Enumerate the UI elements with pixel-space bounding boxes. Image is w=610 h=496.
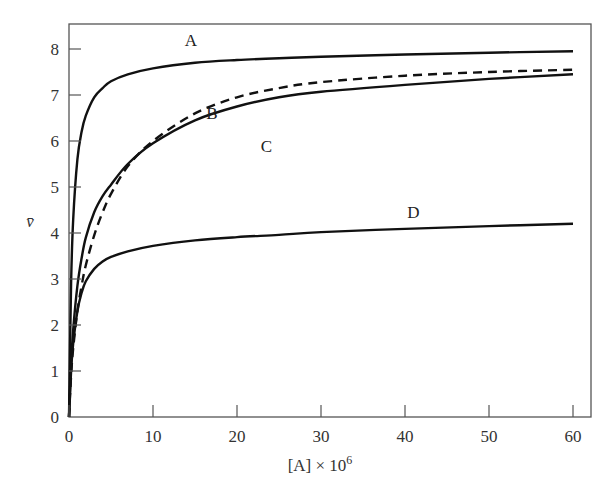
plot-frame <box>69 24 591 417</box>
y-axis-ticks: 012345678 <box>51 40 82 427</box>
y-tick-label: 3 <box>51 270 60 289</box>
curve-b <box>69 70 573 417</box>
x-tick-label: 30 <box>313 427 330 446</box>
curve-labels: ABCD <box>185 31 420 223</box>
chart: ABCD 0102030405060 012345678 [A] × 106 v… <box>0 0 610 496</box>
x-axis-ticks: 0102030405060 <box>65 405 582 446</box>
curve-a <box>69 51 573 417</box>
curve-d <box>69 224 573 417</box>
y-tick-label: 0 <box>51 408 60 427</box>
x-tick-label: 40 <box>397 427 414 446</box>
x-tick-label: 10 <box>145 427 162 446</box>
y-tick-label: 2 <box>51 316 60 335</box>
x-tick-label: 50 <box>481 427 498 446</box>
y-tick-label: 1 <box>51 362 60 381</box>
y-tick-label: 4 <box>51 224 60 243</box>
x-axis-title: [A] × 106 <box>288 453 353 475</box>
curve-label-c: C <box>261 137 272 156</box>
y-tick-label: 7 <box>51 86 60 105</box>
curve-c <box>69 74 573 417</box>
curve-label-b: B <box>206 104 217 123</box>
y-tick-label: 5 <box>51 178 60 197</box>
y-tick-label: 6 <box>51 132 60 151</box>
curve-label-d: D <box>407 203 419 222</box>
x-tick-label: 20 <box>229 427 246 446</box>
plot-border <box>69 24 591 417</box>
x-tick-label: 60 <box>565 427 582 446</box>
curves <box>69 51 573 417</box>
y-axis-title: v̄ <box>26 212 34 231</box>
curve-label-a: A <box>185 31 198 50</box>
x-tick-label: 0 <box>65 427 74 446</box>
y-tick-label: 8 <box>51 40 60 59</box>
